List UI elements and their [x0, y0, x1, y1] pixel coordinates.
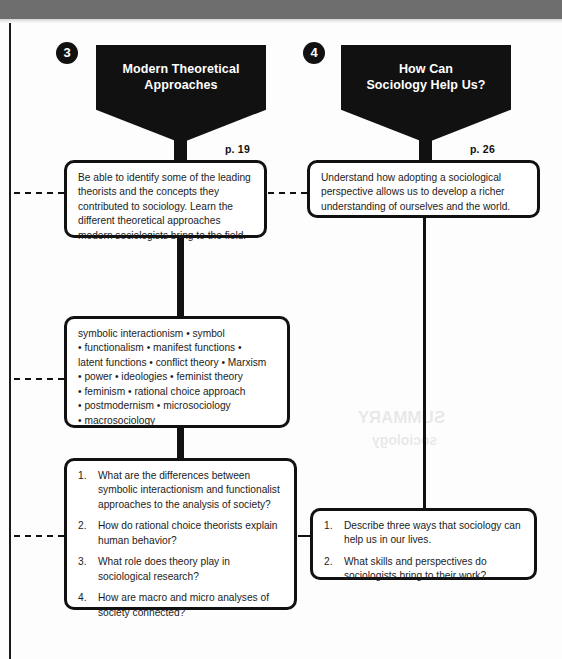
question-item: 2. How do rational choice theorists expl… [78, 519, 284, 548]
keywords-box-3: symbolic interactionism • symbol • funct… [64, 316, 290, 428]
section-badge-3: 3 [56, 42, 78, 64]
dash-link-keywords-left [14, 378, 64, 380]
question-text: Describe three ways that sociology can h… [344, 520, 521, 545]
page-ref-4: p. 26 [470, 143, 495, 155]
questions-list-3: 1. What are the differences between symb… [78, 469, 284, 620]
section-title-3-line2: Approaches [144, 78, 217, 92]
objective-box-4: Understand how adopting a sociological p… [307, 160, 540, 218]
keyword-line: • functionalism • manifest functions • [78, 341, 277, 355]
question-item: 1. Describe three ways that sociology ca… [324, 519, 524, 548]
section-title-3-line1: Modern Theoretical [122, 62, 239, 76]
keyword-line: latent functions • conflict theory • Mar… [78, 356, 277, 370]
page-bleed-artifact-2: sociology [372, 432, 437, 448]
page-gutter-rule [9, 23, 11, 659]
questions-box-4: 1. Describe three ways that sociology ca… [310, 508, 537, 580]
question-item: 2. What skills and perspectives do socio… [324, 555, 524, 584]
section-banner-3: Modern Theoretical Approaches [96, 45, 266, 143]
question-number: 3. [78, 555, 87, 569]
question-text: What skills and perspectives do sociolog… [344, 556, 487, 581]
section-title-4-line2: Sociology Help Us? [366, 78, 485, 92]
connector-objective-to-keywords-3 [177, 238, 184, 318]
dash-link-questions-left [14, 535, 64, 537]
section-title-4-line1: How Can [399, 62, 453, 76]
questions-box-3: 1. What are the differences between symb… [64, 458, 297, 610]
objective-text-3: Be able to identify some of the leading … [67, 163, 264, 251]
page-ref-3: p. 19 [225, 143, 250, 155]
connector-objective-to-questions-4 [423, 218, 426, 510]
question-item: 1. What are the differences between symb… [78, 469, 284, 512]
chapter-outline-page: SUMMARY sociology 3 Modern Theoretical A… [0, 0, 562, 659]
keyword-line: • feminism • rational choice approach [78, 385, 277, 399]
page-bleed-artifact: SUMMARY [358, 408, 445, 428]
question-item: 3. What role does theory play in sociolo… [78, 555, 284, 584]
question-text: How are macro and micro analyses of soci… [98, 592, 269, 617]
keyword-line: • macrosociology [78, 414, 277, 428]
question-number: 2. [78, 519, 87, 533]
keyword-line: • postmodernism • microsociology [78, 399, 277, 413]
top-page-band [0, 0, 562, 19]
dash-link-questions-mid [298, 535, 310, 537]
question-text: What are the differences between symboli… [98, 470, 280, 510]
objective-box-3: Be able to identify some of the leading … [64, 160, 267, 238]
banner-stem-4 [419, 138, 432, 160]
question-number: 2. [324, 555, 333, 569]
question-text: How do rational choice theorists explain… [98, 520, 278, 545]
top-page-band-shadow [0, 19, 562, 23]
dash-link-objective-mid [268, 192, 307, 194]
objective-text-4: Understand how adopting a sociological p… [310, 163, 537, 222]
section-badge-4: 4 [303, 42, 325, 64]
keyword-line: symbolic interactionism • symbol [78, 327, 277, 341]
question-number: 1. [78, 469, 87, 483]
connector-keywords-to-questions-3 [177, 428, 184, 460]
keyword-line: • power • ideologies • feminist theory [78, 370, 277, 384]
banner-stem-3 [174, 138, 187, 160]
dash-link-objective-left [14, 192, 64, 194]
question-item: 4. How are macro and micro analyses of s… [78, 591, 284, 620]
section-title-3: Modern Theoretical Approaches [114, 62, 247, 93]
question-number: 1. [324, 519, 333, 533]
question-text: What role does theory play in sociologic… [98, 556, 230, 581]
keywords-list-3: symbolic interactionism • symbol • funct… [67, 319, 287, 436]
questions-list-4: 1. Describe three ways that sociology ca… [324, 519, 524, 584]
section-banner-4: How Can Sociology Help Us? [341, 45, 511, 143]
section-title-4: How Can Sociology Help Us? [358, 62, 493, 93]
question-number: 4. [78, 591, 87, 605]
